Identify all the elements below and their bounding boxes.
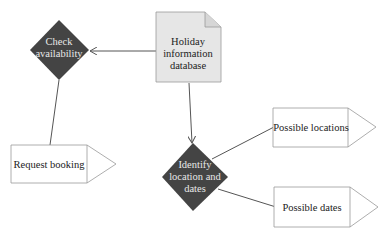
node-label-line: dates bbox=[184, 183, 206, 194]
flow-diagram: Check availability Holiday information d… bbox=[0, 0, 391, 237]
edge-db-to-identify bbox=[189, 83, 192, 143]
node-check-availability: Check availability bbox=[30, 20, 89, 80]
node-label-line: Holiday bbox=[171, 36, 206, 47]
node-label-line: information bbox=[163, 48, 213, 59]
node-label-line: Check bbox=[46, 36, 74, 47]
node-label-line: Identify bbox=[178, 159, 212, 170]
node-identify-location-dates: Identify location and dates bbox=[162, 143, 228, 211]
node-label-line: location and bbox=[169, 171, 221, 182]
edge-identify-to-locations bbox=[212, 127, 274, 159]
node-label-line: Possible locations bbox=[273, 122, 349, 133]
node-label-line: Possible dates bbox=[282, 202, 341, 213]
node-label-line: database bbox=[170, 60, 206, 71]
edge-identify-to-dates bbox=[218, 189, 276, 207]
node-request-booking: Request booking bbox=[11, 145, 116, 183]
node-holiday-database: Holiday information database bbox=[156, 12, 221, 82]
node-label-line: availability bbox=[35, 48, 83, 59]
edge-check-to-request bbox=[50, 80, 59, 145]
node-label-line: Request booking bbox=[14, 159, 86, 170]
node-possible-dates: Possible dates bbox=[274, 187, 378, 227]
node-possible-locations: Possible locations bbox=[273, 108, 376, 147]
